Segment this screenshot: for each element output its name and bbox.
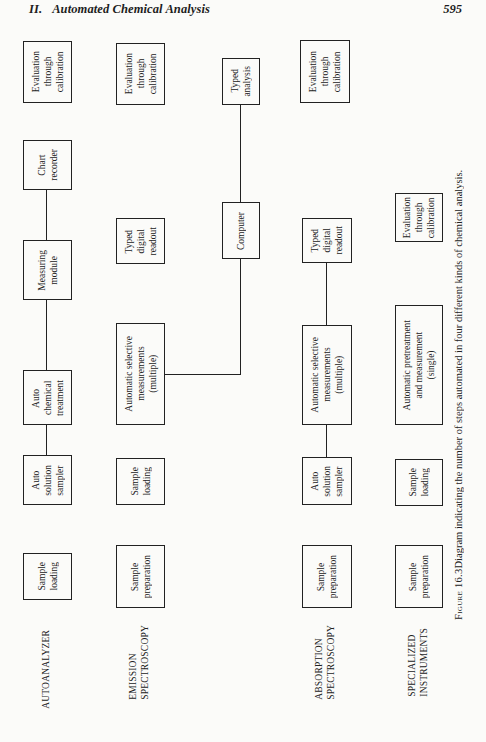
figure-caption: Figure 16.3Diagram indicating the number… [453,40,464,620]
connector [240,105,241,202]
autoanalyzer-chart-recorder: Chart recorder [23,140,72,190]
running-title: II.Automated Chemical Analysis [29,2,210,17]
absorption-typed-digital-readout: Typed digital readout [302,218,352,263]
specialized-sample-loading: Sample loading [395,459,443,506]
autoanalyzer-sample-loading: Sample loading [23,553,72,600]
connector [46,425,47,455]
autoanalyzer-auto-solution-sampler: Auto solution sampler [23,455,72,505]
connector [326,425,327,457]
caption-text: Diagram indicating the number of steps a… [453,170,464,569]
connector [46,190,47,240]
row-label-emission-spectroscopy: EMISSION SPECTROSCOPY [127,625,151,700]
autoanalyzer-measuring-module: Measuring module [23,240,72,300]
section-number: II. [29,2,42,16]
emission-evaluation: Evaluation through calibration [116,43,165,105]
connector [326,263,327,325]
connector [165,374,241,375]
row-label-autoanalyzer: AUTOANALYZER [40,630,52,709]
typed-analysis: Typed analysis [222,58,260,105]
computer: Computer [222,202,260,259]
specialized-evaluation: Evaluation through calibration [395,193,443,242]
emission-sample-loading: Sample loading [116,458,165,505]
specialized-sample-preparation: Sample preparation [395,545,443,608]
autoanalyzer-auto-chemical-treatment: Auto chemical treatment [23,370,72,425]
autoanalyzer-evaluation: Evaluation through calibration [23,41,72,103]
emission-automatic-selective-measurements: Automatic selective measurements (multip… [116,323,165,425]
connector [46,300,47,370]
emission-typed-digital-readout: Typed digital readout [116,218,165,264]
absorption-sample-preparation: Sample preparation [302,545,352,608]
absorption-automatic-selective-measurements: Automatic selective measurements (multip… [302,325,352,425]
row-label-absorption-spectroscopy: ABSORPTION SPECTROSCOPY [313,625,337,700]
absorption-auto-solution-sampler: Auto solution sampler [302,457,352,505]
row-label-specialized-instruments: SPECIALIZED INSTRUMENTS [406,628,430,697]
figure-label: Figure 16.3 [453,568,464,620]
page-number: 595 [443,2,462,17]
page-header: II.Automated Chemical Analysis 595 [0,0,486,24]
connector [240,259,241,375]
specialized-automatic-pretreatment: Automatic pretreatment and measurement (… [395,305,443,425]
section-title: Automated Chemical Analysis [52,2,210,16]
absorption-evaluation: Evaluation through calibration [300,40,350,103]
emission-sample-preparation: Sample preparation [116,545,165,608]
